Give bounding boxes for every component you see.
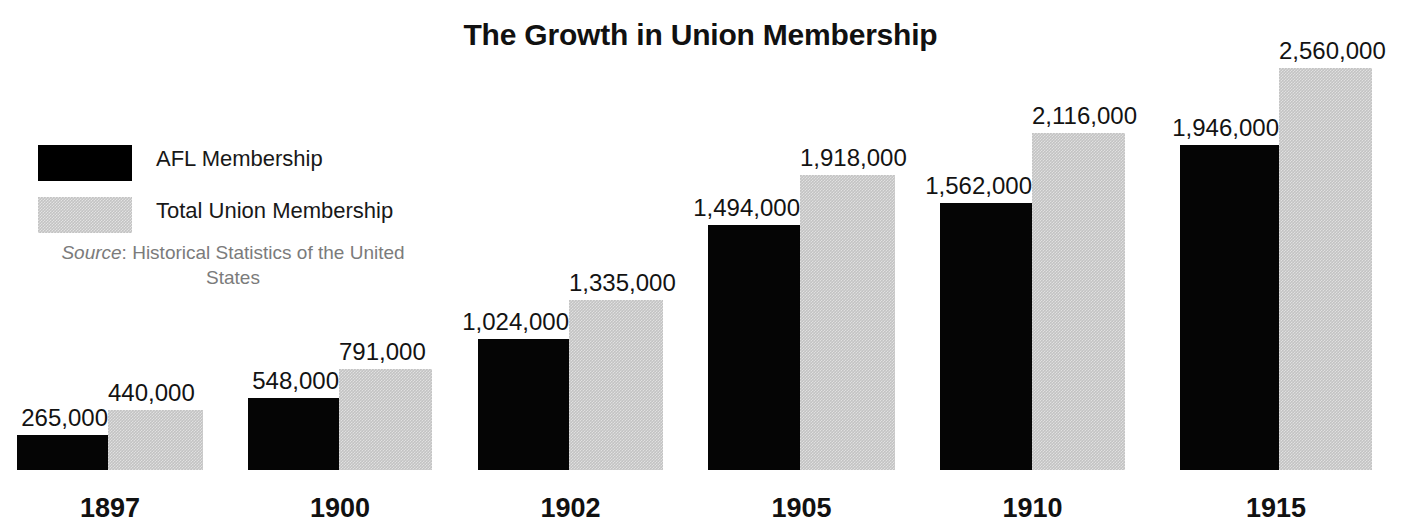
axis-label-year: 1902 <box>478 493 663 524</box>
bar-value-total: 1,918,000 <box>800 144 907 175</box>
bar-total[interactable]: 1,335,000 <box>569 300 663 470</box>
bar-total[interactable]: 2,560,000 <box>1279 68 1372 470</box>
bar-value-total: 2,116,000 <box>1032 102 1137 133</box>
bar-value-total: 440,000 <box>108 379 195 410</box>
bar-value-total: 1,335,000 <box>569 269 676 300</box>
bar-value-afl: 548,000 <box>252 367 339 398</box>
bar-afl[interactable]: 548,000 <box>248 398 339 470</box>
bar-group: 548,000791,0001900 <box>248 0 432 532</box>
bar-value-afl: 1,946,000 <box>1172 114 1279 145</box>
axis-label-year: 1897 <box>17 493 203 524</box>
bar-value-afl: 1,024,000 <box>462 308 569 339</box>
bar-value-total: 791,000 <box>339 338 426 369</box>
bar-afl[interactable]: 1,946,000 <box>1180 145 1279 470</box>
bar-afl[interactable]: 1,562,000 <box>940 203 1032 470</box>
bar-value-afl: 265,000 <box>21 404 108 435</box>
axis-label-year: 1915 <box>1180 493 1372 524</box>
bar-total[interactable]: 440,000 <box>108 410 203 470</box>
bar-afl[interactable]: 1,024,000 <box>478 339 569 470</box>
axis-label-year: 1905 <box>708 493 895 524</box>
bar-group: 1,024,0001,335,0001902 <box>478 0 663 532</box>
bar-afl[interactable]: 265,000 <box>17 435 108 470</box>
chart-canvas: The Growth in Union Membership AFL Membe… <box>0 0 1401 532</box>
bar-total[interactable]: 2,116,000 <box>1032 133 1125 470</box>
bar-group: 1,494,0001,918,0001905 <box>708 0 895 532</box>
bar-total[interactable]: 791,000 <box>339 369 432 470</box>
bar-afl[interactable]: 1,494,000 <box>708 225 800 470</box>
bar-total[interactable]: 1,918,000 <box>800 175 895 470</box>
bar-value-afl: 1,562,000 <box>925 172 1032 203</box>
bar-group: 1,946,0002,560,0001915 <box>1180 0 1372 532</box>
bar-value-total: 2,560,000 <box>1279 37 1386 68</box>
axis-label-year: 1900 <box>248 493 432 524</box>
axis-label-year: 1910 <box>940 493 1125 524</box>
bar-group: 265,000440,0001897 <box>17 0 203 532</box>
bar-plot-area: 265,000440,0001897548,000791,00019001,02… <box>0 0 1401 532</box>
bar-group: 1,562,0002,116,0001910 <box>940 0 1125 532</box>
bar-value-afl: 1,494,000 <box>693 194 800 225</box>
